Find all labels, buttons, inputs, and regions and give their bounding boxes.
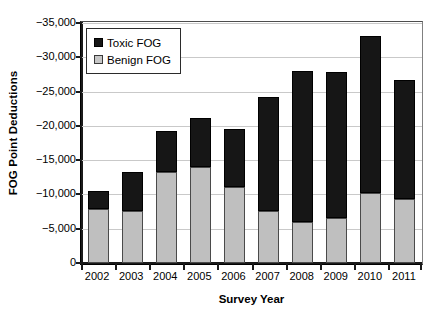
legend-item-toxic-fog: Toxic FOG <box>94 34 171 51</box>
bar-segment-toxic <box>394 80 415 199</box>
x-tick-label-2010: 2010 <box>358 270 382 282</box>
bar-2008 <box>292 71 313 263</box>
x-tick-label-2008: 2008 <box>289 270 313 282</box>
bar-segment-benign <box>122 211 143 263</box>
x-tick-mark <box>286 264 288 270</box>
y-tick-mark <box>76 125 82 127</box>
y-tick-label: −25,000 <box>24 85 76 97</box>
y-tick-label: −5,000 <box>24 222 76 234</box>
bar-segment-benign <box>258 211 279 263</box>
x-tick-label-2002: 2002 <box>85 270 109 282</box>
x-tick-label-2004: 2004 <box>153 270 177 282</box>
legend-label: Benign FOG <box>107 54 171 66</box>
bar-segment-benign <box>156 172 177 263</box>
gridline <box>81 23 422 24</box>
x-tick-label-2007: 2007 <box>255 270 279 282</box>
bar-segment-benign <box>224 187 245 263</box>
y-tick-label: −35,000 <box>24 16 76 28</box>
bar-segment-benign <box>360 193 381 263</box>
x-tick-mark <box>183 264 185 270</box>
x-tick-mark <box>81 264 83 270</box>
bar-2006 <box>224 129 245 263</box>
y-tick-label: 0 <box>24 256 76 268</box>
x-tick-mark <box>320 264 322 270</box>
y-tick-mark <box>76 91 82 93</box>
y-tick-mark <box>76 56 82 58</box>
bar-2003 <box>122 172 143 263</box>
y-tick-mark <box>76 228 82 230</box>
x-tick-label-2005: 2005 <box>187 270 211 282</box>
bar-segment-benign <box>394 199 415 263</box>
bar-segment-toxic <box>258 97 279 211</box>
y-tick-label: −15,000 <box>24 153 76 165</box>
x-tick-mark <box>420 264 422 270</box>
bar-segment-toxic <box>292 71 313 222</box>
x-axis-title: Survey Year <box>80 293 423 305</box>
legend-swatch-icon <box>94 38 103 47</box>
chart-legend: Toxic FOGBenign FOG <box>86 28 181 74</box>
bar-2011 <box>394 80 415 263</box>
y-tick-label: −30,000 <box>24 50 76 62</box>
bar-segment-benign <box>190 167 211 263</box>
bar-2004 <box>156 131 177 263</box>
bar-segment-benign <box>88 209 109 263</box>
bar-segment-toxic <box>88 191 109 209</box>
bar-segment-toxic <box>122 172 143 211</box>
bar-segment-toxic <box>360 36 381 193</box>
x-tick-label-2003: 2003 <box>119 270 143 282</box>
x-tick-mark <box>354 264 356 270</box>
legend-item-benign-fog: Benign FOG <box>94 51 171 68</box>
bar-segment-benign <box>292 222 313 263</box>
x-tick-label-2006: 2006 <box>221 270 245 282</box>
y-tick-mark <box>76 159 82 161</box>
x-tick-label-2011: 2011 <box>392 270 416 282</box>
bar-segment-benign <box>326 218 347 263</box>
chart-figure: FOG Point Deductions −35,000−30,000−25,0… <box>0 0 443 321</box>
bar-2005 <box>190 118 211 263</box>
bar-2010 <box>360 36 381 263</box>
bar-segment-toxic <box>156 131 177 171</box>
y-axis-tick-labels: −35,000−30,000−25,000−20,000−15,000−10,0… <box>22 0 76 321</box>
legend-label: Toxic FOG <box>107 37 161 49</box>
x-tick-mark <box>115 264 117 270</box>
bar-segment-toxic <box>326 72 347 217</box>
y-tick-label: −20,000 <box>24 119 76 131</box>
x-tick-mark <box>252 264 254 270</box>
y-tick-mark <box>76 22 82 24</box>
y-tick-mark <box>76 193 82 195</box>
x-tick-mark <box>149 264 151 270</box>
bar-2007 <box>258 97 279 263</box>
x-tick-mark <box>217 264 219 270</box>
bar-2002 <box>88 191 109 263</box>
bar-segment-toxic <box>190 118 211 167</box>
y-tick-label: −10,000 <box>24 187 76 199</box>
legend-swatch-icon <box>94 55 103 64</box>
bar-2009 <box>326 72 347 263</box>
bar-segment-toxic <box>224 129 245 187</box>
x-tick-mark <box>388 264 390 270</box>
x-tick-label-2009: 2009 <box>324 270 348 282</box>
